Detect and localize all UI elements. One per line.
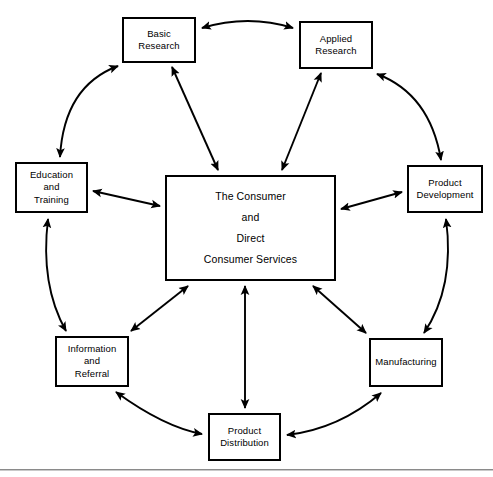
connector-education-and-training-basic-research — [60, 66, 118, 157]
node-label-line: Consumer Services — [204, 249, 297, 270]
node-label-line: Research — [315, 45, 356, 58]
diagram-canvas: Basic Research Applied Research Educatio… — [0, 0, 493, 477]
node-label-line: Manufacturing — [375, 356, 437, 369]
connector-manufacturing-the-consumer — [313, 286, 366, 333]
node-label-line: Development — [416, 189, 473, 202]
node-product-distribution[interactable]: Product Distribution — [208, 413, 281, 461]
node-information-and-referral[interactable]: Information and Referral — [55, 336, 129, 387]
connector-manufacturing-product-distribution — [287, 393, 381, 435]
connector-applied-research-product-development — [377, 74, 441, 160]
node-label-line: Distribution — [220, 437, 269, 450]
node-label-line: Training — [34, 194, 69, 207]
connector-information-and-referral-product-distribution — [116, 392, 202, 434]
node-the-consumer[interactable]: The Consumer and Direct Consumer Service… — [165, 175, 336, 281]
node-label-line: Information — [68, 343, 117, 356]
node-applied-research[interactable]: Applied Research — [299, 21, 373, 69]
connector-basic-research-applied-research — [202, 21, 293, 28]
node-label-line: Basic — [147, 28, 171, 41]
node-education-and-training[interactable]: Education and Training — [15, 162, 88, 213]
node-label-line: and — [242, 207, 260, 228]
connector-applied-research-the-consumer — [282, 73, 321, 170]
node-label-line: Research — [138, 40, 179, 53]
node-label-line: and — [84, 355, 100, 368]
node-label-line: Education — [30, 169, 73, 182]
connector-product-development-the-consumer — [341, 192, 402, 209]
node-basic-research[interactable]: Basic Research — [122, 17, 196, 63]
connector-information-and-referral-the-consumer — [131, 286, 188, 331]
node-label-line: Product — [428, 177, 461, 190]
node-manufacturing[interactable]: Manufacturing — [369, 338, 443, 387]
bottom-divider-rule — [0, 469, 493, 471]
node-label-line: Applied — [320, 33, 352, 46]
node-product-development[interactable]: Product Development — [407, 165, 483, 213]
node-label-line: Product — [228, 425, 261, 438]
connector-education-and-training-the-consumer — [93, 191, 160, 206]
connector-education-and-training-information-and-referral — [46, 219, 66, 331]
node-label-line: and — [43, 181, 59, 194]
connector-product-development-manufacturing — [424, 219, 448, 333]
node-label-line: Referral — [75, 368, 110, 381]
connector-basic-research-the-consumer — [172, 67, 218, 170]
node-label-line: The Consumer — [215, 186, 286, 207]
node-label-line: Direct — [236, 228, 264, 249]
